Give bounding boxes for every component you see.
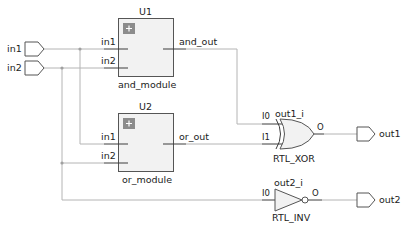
- pin-label: in2: [101, 55, 116, 66]
- plus-icon[interactable]: [123, 118, 135, 129]
- schematic-canvas: in1 in2 U1 in1 in2 and_out and_module U2…: [0, 0, 408, 229]
- input-port-in2[interactable]: in2: [7, 61, 44, 75]
- output-port-icon: [357, 193, 375, 207]
- module-type: and_module: [118, 79, 176, 90]
- pin-label: I1: [262, 132, 270, 142]
- plus-icon[interactable]: [123, 23, 135, 34]
- xor-gate-icon: [280, 119, 314, 149]
- instance-name: U1: [139, 6, 152, 17]
- gate-xor-out1-i[interactable]: I0 out1_i I1 O RTL_XOR: [262, 108, 324, 164]
- port-label: in2: [7, 62, 22, 73]
- pin-label: in1: [101, 36, 116, 47]
- port-label: out1: [379, 128, 401, 139]
- junction-dot: [60, 161, 63, 164]
- pin-label: and_out: [179, 36, 217, 47]
- output-port-out1[interactable]: out1: [357, 127, 401, 141]
- gate-type: RTL_XOR: [273, 153, 315, 164]
- pin-label: O: [317, 122, 324, 132]
- pin-label: I0: [262, 111, 270, 121]
- junction-dot: [78, 47, 81, 50]
- gate-inv-out2-i[interactable]: out2_i I0 O RTL_INV: [262, 177, 322, 223]
- module-u1[interactable]: U1 in1 in2 and_out and_module: [101, 6, 217, 90]
- junction-dot: [60, 66, 63, 69]
- port-label: in1: [7, 43, 22, 54]
- output-port-icon: [357, 127, 375, 141]
- input-port-in1[interactable]: in1: [7, 42, 44, 56]
- pin-label: in1: [101, 131, 116, 142]
- pin-label: I0: [262, 188, 270, 198]
- pin-label: or_out: [179, 131, 209, 142]
- pin-label: O: [312, 188, 319, 198]
- instance-name: U2: [139, 101, 152, 112]
- port-label: out2: [379, 194, 401, 205]
- module-u2[interactable]: U2 in1 in2 or_out or_module: [101, 101, 209, 185]
- output-port-out2[interactable]: out2: [357, 193, 401, 207]
- wires: [44, 49, 357, 200]
- inversion-bubble-icon: [302, 197, 308, 203]
- pin-label: in2: [101, 150, 116, 161]
- input-port-icon: [25, 61, 44, 75]
- instance-name: out1_i: [275, 108, 304, 119]
- instance-name: out2_i: [274, 177, 303, 188]
- gate-type: RTL_INV: [272, 212, 311, 223]
- input-port-icon: [25, 42, 44, 56]
- module-type: or_module: [122, 174, 172, 185]
- net-and-out[interactable]: [186, 49, 262, 124]
- inverter-icon: [275, 189, 302, 211]
